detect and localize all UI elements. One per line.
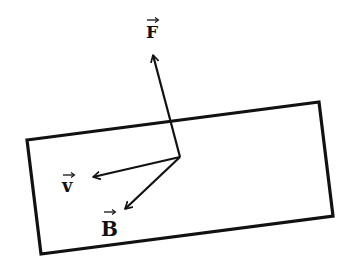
velocity-label: v [61, 173, 75, 197]
diagram-canvas: F v B [0, 0, 352, 264]
velocity-vector-arrow [93, 157, 180, 177]
force-label-text: F [146, 22, 158, 42]
rectangular-loop [27, 102, 333, 254]
magnetic-field-label: B [101, 210, 118, 242]
force-label: F [146, 18, 159, 43]
velocity-label-text: v [61, 175, 73, 196]
magnetic-field-label-text: B [101, 217, 118, 241]
magnetic-field-vector-arrow [125, 157, 180, 209]
force-vector-arrow [153, 55, 180, 157]
